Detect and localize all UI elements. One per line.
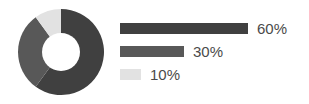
donut-chart <box>18 9 104 95</box>
chart-legend: 60% 30% 10% <box>120 17 305 89</box>
legend-label-30: 30% <box>193 44 223 59</box>
legend-item-10[interactable]: 10% <box>120 63 180 85</box>
legend-swatch-bar-60 <box>120 23 248 34</box>
legend-swatch-bar-10 <box>120 69 141 80</box>
donut-chart-figure: 60% 30% 10% <box>0 0 309 104</box>
legend-item-30[interactable]: 30% <box>120 40 223 62</box>
legend-swatch-bar-30 <box>120 46 184 57</box>
legend-item-60[interactable]: 60% <box>120 17 287 39</box>
legend-label-60: 60% <box>257 21 287 36</box>
legend-label-10: 10% <box>150 67 180 82</box>
donut-hole <box>42 33 80 71</box>
donut-svg <box>18 9 104 95</box>
